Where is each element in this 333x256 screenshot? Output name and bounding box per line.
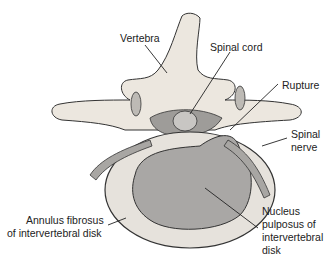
label-nucleus-2: pulposus of [262,218,316,230]
label-vertebra: Vertebra [120,32,160,44]
label-rupture: Rupture [282,79,319,91]
label-annulus-2: of intervertebral disk [7,227,102,239]
label-annulus-1: Annulus fibrosus [26,214,104,226]
spinal-cord-shape [173,111,197,131]
label-nucleus-4: disk [262,244,281,256]
label-spinal-nerve-2: nerve [291,141,317,153]
label-nucleus-1: Nucleus [262,205,300,217]
label-spinal-cord: Spinal cord [210,41,263,53]
facet-left [131,92,141,116]
facet-right [235,86,245,110]
label-spinal-nerve-1: Spinal [291,128,320,140]
diagram: Vertebra Spinal cord Rupture Spinal nerv… [0,0,333,256]
label-nucleus-3: intervertebral [262,231,323,243]
